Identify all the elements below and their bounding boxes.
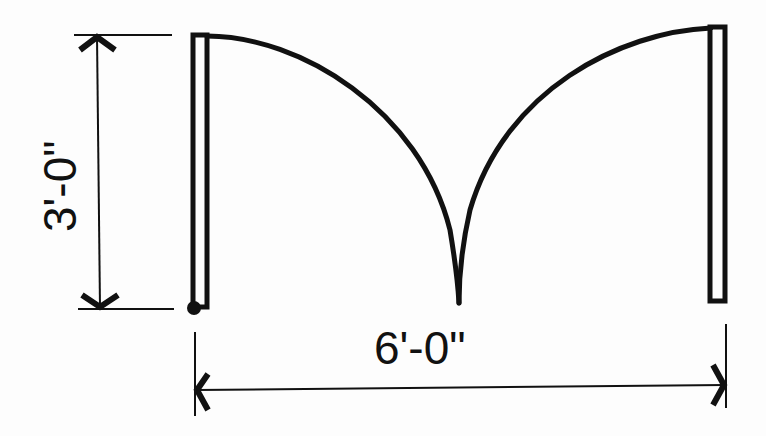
right-swing-arc [459, 28, 711, 303]
hinge-point-icon [187, 301, 201, 315]
horizontal-dimension-label: 6'-0" [374, 322, 466, 374]
double-door-diagram: 3'-0" 6'-0" [0, 0, 766, 436]
vertical-dimension-label: 3'-0" [34, 140, 86, 232]
vertical-dimension [74, 35, 174, 309]
left-door-leaf [193, 35, 207, 307]
arrow-tick-left-icon [197, 374, 208, 410]
vertical-dimension-line [97, 36, 100, 308]
left-swing-arc [207, 36, 459, 303]
horizontal-dimension-line [196, 385, 725, 390]
right-door-leaf [710, 27, 725, 301]
